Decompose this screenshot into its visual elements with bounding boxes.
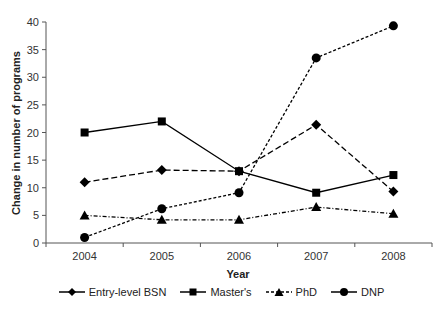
- series-phd: [80, 202, 399, 224]
- data-point: [234, 215, 244, 224]
- axes: 051015202530354020042005200620072008: [27, 16, 432, 262]
- series-dnp: [80, 21, 398, 242]
- series-master-s: [81, 117, 398, 196]
- y-tick-label: 5: [33, 209, 39, 221]
- legend-item-phd: PhD: [266, 286, 317, 298]
- y-tick-label: 25: [27, 99, 39, 111]
- diamond-marker-icon: [59, 287, 85, 297]
- data-point: [312, 189, 320, 197]
- legend-label: PhD: [296, 286, 317, 298]
- data-point: [312, 53, 321, 62]
- x-tick-label: 2006: [227, 250, 251, 262]
- line-chart: 051015202530354020042005200620072008 Cha…: [0, 0, 443, 316]
- legend-label: Entry-level BSN: [89, 286, 167, 298]
- data-point: [157, 165, 167, 175]
- y-tick-label: 0: [33, 237, 39, 249]
- circle-marker-icon: [331, 287, 357, 297]
- data-point: [80, 233, 89, 242]
- data-point: [389, 21, 398, 30]
- x-axis-title: Year: [226, 268, 250, 280]
- x-tick-label: 2004: [72, 250, 96, 262]
- data-point: [80, 210, 90, 219]
- y-axis-title: Change in number of programs: [10, 51, 22, 215]
- y-tick-label: 15: [27, 154, 39, 166]
- legend: Entry-level BSN Master's PhD DNP: [0, 286, 443, 298]
- series-group: [80, 21, 399, 242]
- data-point: [311, 202, 321, 211]
- legend-item-dnp: DNP: [331, 286, 384, 298]
- x-tick-label: 2005: [150, 250, 174, 262]
- data-point: [80, 177, 90, 187]
- y-tick-label: 35: [27, 44, 39, 56]
- x-tick-label: 2008: [381, 250, 405, 262]
- data-point: [389, 171, 397, 179]
- y-tick-label: 10: [27, 182, 39, 194]
- data-point: [235, 188, 244, 197]
- square-marker-icon: [180, 287, 206, 297]
- y-tick-label: 30: [27, 71, 39, 83]
- legend-label: DNP: [361, 286, 384, 298]
- legend-item-masters: Master's: [180, 286, 251, 298]
- x-tick-label: 2007: [304, 250, 328, 262]
- y-tick-label: 20: [27, 127, 39, 139]
- y-tick-label: 40: [27, 16, 39, 28]
- data-point: [235, 167, 243, 175]
- data-point: [81, 129, 89, 137]
- data-point: [157, 204, 166, 213]
- triangle-marker-icon: [266, 287, 292, 297]
- data-point: [158, 117, 166, 125]
- data-point: [311, 120, 321, 130]
- legend-item-bsn: Entry-level BSN: [59, 286, 167, 298]
- legend-label: Master's: [210, 286, 251, 298]
